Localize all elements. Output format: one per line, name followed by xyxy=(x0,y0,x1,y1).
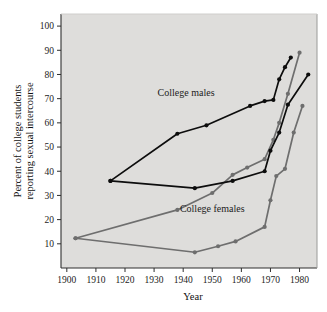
data-point xyxy=(306,72,310,76)
data-point xyxy=(210,191,214,195)
y-axis-title-line2: reporting sexual intercourse xyxy=(24,82,35,200)
y-tick-label: 80 xyxy=(45,70,55,80)
data-point xyxy=(277,130,281,134)
x-axis-title: Year xyxy=(183,291,203,302)
data-point xyxy=(175,208,179,212)
data-point xyxy=(108,179,112,183)
line-chart-svg: 102030405060708090100 190019101920193019… xyxy=(0,0,327,312)
data-point xyxy=(289,55,293,59)
data-point xyxy=(231,179,235,183)
data-point xyxy=(274,174,278,178)
x-tick-label: 1900 xyxy=(57,275,76,285)
data-point xyxy=(268,198,272,202)
data-point xyxy=(271,98,275,102)
data-point xyxy=(193,250,197,254)
data-point xyxy=(204,123,208,127)
data-point xyxy=(283,167,287,171)
data-point xyxy=(292,130,296,134)
y-tick-label: 30 xyxy=(45,191,55,201)
data-point xyxy=(283,65,287,69)
data-point xyxy=(263,157,267,161)
y-tick-label: 100 xyxy=(40,21,55,31)
y-axis-title: Percent of college students reporting se… xyxy=(12,82,35,200)
data-point xyxy=(277,77,281,81)
x-tick-label: 1910 xyxy=(86,275,105,285)
data-point xyxy=(300,104,304,108)
y-tick-label: 10 xyxy=(45,239,55,249)
plot-area-background xyxy=(61,14,317,268)
data-point xyxy=(263,225,267,229)
x-tick-label: 1930 xyxy=(145,275,164,285)
chart-figure: 102030405060708090100 190019101920193019… xyxy=(0,0,327,312)
y-tick-label: 60 xyxy=(45,118,55,128)
data-point xyxy=(73,236,77,240)
data-point xyxy=(297,51,301,55)
x-tick-label: 1980 xyxy=(290,275,309,285)
series-annotation-label: College males xyxy=(158,87,215,98)
data-point xyxy=(231,173,235,177)
data-point xyxy=(175,132,179,136)
data-point xyxy=(268,149,272,153)
data-point xyxy=(248,104,252,108)
data-point xyxy=(233,239,237,243)
data-point xyxy=(263,99,267,103)
x-tick-label: 1970 xyxy=(261,275,280,285)
y-tick-label: 40 xyxy=(45,167,55,177)
y-tick-label: 50 xyxy=(45,142,55,152)
y-tick-label: 20 xyxy=(45,215,55,225)
data-point xyxy=(286,103,290,107)
x-tick-label: 1940 xyxy=(174,275,193,285)
data-point xyxy=(286,92,290,96)
data-point xyxy=(263,169,267,173)
x-tick-label: 1950 xyxy=(203,275,222,285)
data-point xyxy=(193,186,197,190)
data-point xyxy=(245,166,249,170)
y-tick-label: 90 xyxy=(45,46,55,56)
data-point xyxy=(277,121,281,125)
data-point xyxy=(216,244,220,248)
y-tick-label: 70 xyxy=(45,94,55,104)
x-tick-label: 1920 xyxy=(116,275,135,285)
y-axis-title-line1: Percent of college students xyxy=(12,85,23,198)
series-annotation-label: College females xyxy=(180,203,245,214)
x-tick-label: 1960 xyxy=(232,275,251,285)
